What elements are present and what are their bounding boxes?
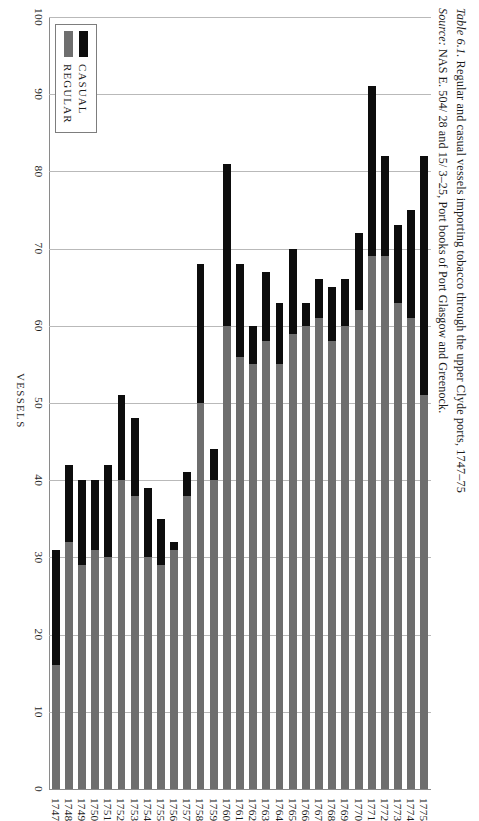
bar-segment-regular — [328, 341, 336, 789]
legend-swatch-regular — [64, 31, 73, 57]
category-label-1757: 1757 — [181, 798, 193, 821]
bar-segment-regular — [249, 364, 257, 789]
category-label-1752: 1752 — [115, 798, 127, 821]
x-tick-label-0: 0 — [33, 786, 45, 792]
bar-segment-casual — [368, 86, 376, 256]
x-tick-label-90: 90 — [33, 88, 45, 100]
bar-segment-regular — [131, 496, 139, 789]
bar-segment-casual — [183, 472, 191, 495]
bar-row — [104, 17, 112, 789]
bar-segment-casual — [210, 449, 218, 480]
x-tick-label-60: 60 — [33, 320, 45, 332]
bar-segment-regular — [170, 550, 178, 789]
category-label-1750: 1750 — [89, 798, 101, 821]
bar-row — [210, 17, 218, 789]
bar-row — [315, 17, 323, 789]
bar-row — [131, 17, 139, 789]
bar-segment-casual — [289, 249, 297, 334]
x-tick-label-80: 80 — [33, 165, 45, 177]
bar-segment-regular — [157, 565, 165, 789]
category-label-1747: 1747 — [50, 798, 62, 821]
bar-segment-casual — [131, 418, 139, 495]
bar-row — [223, 17, 231, 789]
chart-plot-frame: 0102030405060708090100 VESSELS 174717481… — [49, 17, 431, 789]
bar-segment-regular — [210, 480, 218, 789]
bar-row — [52, 17, 60, 789]
x-tick-label-10: 10 — [33, 706, 45, 718]
bar-row — [302, 17, 310, 789]
bar-segment-casual — [157, 519, 165, 565]
category-label-1756: 1756 — [168, 798, 180, 821]
bar-segment-casual — [394, 225, 402, 302]
bar-segment-regular — [302, 326, 310, 789]
bar-segment-regular — [144, 557, 152, 789]
legend-label-casual: CASUAL — [78, 64, 90, 115]
category-label-1762: 1762 — [247, 798, 259, 821]
bar-row — [355, 17, 363, 789]
bar-segment-casual — [276, 303, 284, 365]
x-tick-label-40: 40 — [33, 474, 45, 486]
bar-row — [262, 17, 270, 789]
bar-row — [183, 17, 191, 789]
source-text: NAS E. 504/ 28 and 15/ 3–25, Port books … — [436, 49, 450, 413]
source-label: Source: — [436, 8, 450, 46]
bar-row — [197, 17, 205, 789]
category-label-1771: 1771 — [366, 798, 378, 821]
bar-row — [144, 17, 152, 789]
bar-segment-regular — [223, 326, 231, 789]
bar-row — [341, 17, 349, 789]
bar-segment-casual — [315, 279, 323, 318]
bar-segment-casual — [78, 480, 86, 565]
category-label-1768: 1768 — [326, 798, 338, 821]
category-label-1773: 1773 — [392, 798, 404, 821]
gridline-0 — [49, 789, 431, 790]
bar-row — [78, 17, 86, 789]
bar-segment-regular — [262, 341, 270, 789]
bar-segment-casual — [118, 395, 126, 480]
category-label-1774: 1774 — [405, 798, 417, 821]
bar-segment-regular — [236, 357, 244, 789]
bar-segment-regular — [407, 318, 415, 789]
x-tick-label-20: 20 — [33, 629, 45, 641]
x-axis-title: VESSELS — [15, 373, 27, 429]
bar-segment-regular — [420, 395, 428, 789]
figure-caption-block: Table 6.1. Regular and casual vessels im… — [433, 8, 469, 748]
category-label-1749: 1749 — [76, 798, 88, 821]
legend-item-regular: REGULAR — [61, 31, 76, 124]
figure-source: Source: NAS E. 504/ 28 and 15/ 3–25, Por… — [433, 8, 450, 748]
bar-segment-casual — [302, 303, 310, 326]
bar-segment-casual — [355, 233, 363, 310]
category-label-1755: 1755 — [155, 798, 167, 821]
bar-segment-regular — [355, 310, 363, 789]
bar-segment-casual — [104, 465, 112, 558]
bar-segment-regular — [315, 318, 323, 789]
bar-segment-regular — [78, 565, 86, 789]
bar-segment-casual — [341, 279, 349, 325]
bar-segment-regular — [341, 326, 349, 789]
bar-segment-casual — [420, 156, 428, 395]
bar-row — [170, 17, 178, 789]
bar-row — [236, 17, 244, 789]
category-label-1765: 1765 — [287, 798, 299, 821]
bar-row — [157, 17, 165, 789]
category-label-1764: 1764 — [274, 798, 286, 821]
category-label-1767: 1767 — [313, 798, 325, 821]
legend-item-casual: CASUAL — [76, 31, 91, 124]
x-tick-label-70: 70 — [33, 243, 45, 255]
bar-series-group — [49, 17, 431, 789]
bar-segment-regular — [52, 665, 60, 789]
chart-legend: CASUALREGULAR — [55, 24, 97, 133]
figure-caption: Table 6.1. Regular and casual vessels im… — [452, 8, 469, 748]
category-label-1761: 1761 — [234, 798, 246, 821]
bar-segment-casual — [223, 164, 231, 326]
bar-segment-regular — [289, 334, 297, 789]
bar-segment-regular — [118, 480, 126, 789]
bar-segment-casual — [91, 480, 99, 549]
bar-row — [328, 17, 336, 789]
bar-row — [249, 17, 257, 789]
caption-text: Regular and casual vessels importing tob… — [454, 61, 468, 493]
bar-segment-regular — [91, 550, 99, 789]
caption-number: Table 6.1. — [454, 8, 468, 57]
